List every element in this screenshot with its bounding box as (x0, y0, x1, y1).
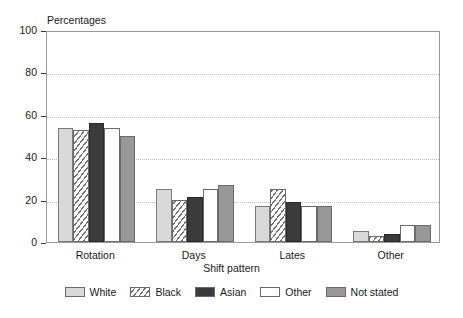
bar-lates-not-stated (317, 206, 333, 242)
y-axis-title: Percentages (47, 14, 106, 26)
legend-swatch-icon (326, 287, 346, 297)
legend-item-white: White (65, 286, 117, 298)
bar-other-white (353, 231, 369, 242)
x-tick-label-other: Other (341, 249, 441, 261)
legend-label: Other (285, 286, 311, 298)
bar-days-not-stated (218, 185, 234, 242)
bar-chart: Percentages 020406080100 RotationDaysLat… (0, 0, 463, 318)
legend-swatch-icon (195, 287, 215, 297)
plot-area (46, 31, 440, 243)
legend-item-not-stated: Not stated (326, 286, 399, 298)
bar-rotation-other (104, 128, 120, 242)
x-tick-label-days: Days (144, 249, 244, 261)
legend-swatch-icon (260, 287, 280, 297)
y-tick-label-40: 40 (3, 151, 37, 163)
bar-lates-black (270, 189, 286, 242)
legend-label: Not stated (351, 286, 399, 298)
y-tick-label-0: 0 (3, 236, 37, 248)
bar-rotation-asian (89, 123, 105, 242)
legend: WhiteBlackAsianOtherNot stated (0, 286, 463, 298)
legend-swatch-icon (130, 287, 150, 297)
bar-lates-white (255, 206, 271, 242)
bar-lates-asian (286, 202, 302, 242)
bar-days-black (172, 200, 188, 242)
y-tick-label-20: 20 (3, 194, 37, 206)
legend-label: Black (155, 286, 181, 298)
legend-label: White (90, 286, 117, 298)
bar-days-white (156, 189, 172, 242)
y-tick-label-100: 100 (3, 24, 37, 36)
y-tick-mark-0 (41, 243, 46, 244)
bar-days-asian (187, 197, 203, 242)
legend-label: Asian (220, 286, 246, 298)
x-axis-title: Shift pattern (0, 262, 463, 274)
bar-rotation-white (58, 128, 74, 242)
y-tick-mark-100 (41, 31, 46, 32)
y-tick-mark-80 (41, 73, 46, 74)
legend-item-other: Other (260, 286, 311, 298)
bar-lates-other (301, 206, 317, 242)
x-tick-label-lates: Lates (242, 249, 342, 261)
legend-swatch-icon (65, 287, 85, 297)
y-tick-mark-60 (41, 116, 46, 117)
bar-rotation-black (73, 130, 89, 242)
bar-days-other (203, 189, 219, 242)
bars-layer (47, 32, 439, 242)
x-tick-label-rotation: Rotation (45, 249, 145, 261)
bar-other-black (369, 236, 385, 242)
y-tick-label-60: 60 (3, 109, 37, 121)
legend-item-asian: Asian (195, 286, 246, 298)
bar-other-other (400, 225, 416, 242)
y-tick-label-80: 80 (3, 66, 37, 78)
bar-other-asian (384, 234, 400, 242)
legend-item-black: Black (130, 286, 181, 298)
bar-other-not-stated (415, 225, 431, 242)
bar-rotation-not-stated (120, 136, 136, 242)
y-tick-mark-20 (41, 201, 46, 202)
y-tick-mark-40 (41, 158, 46, 159)
